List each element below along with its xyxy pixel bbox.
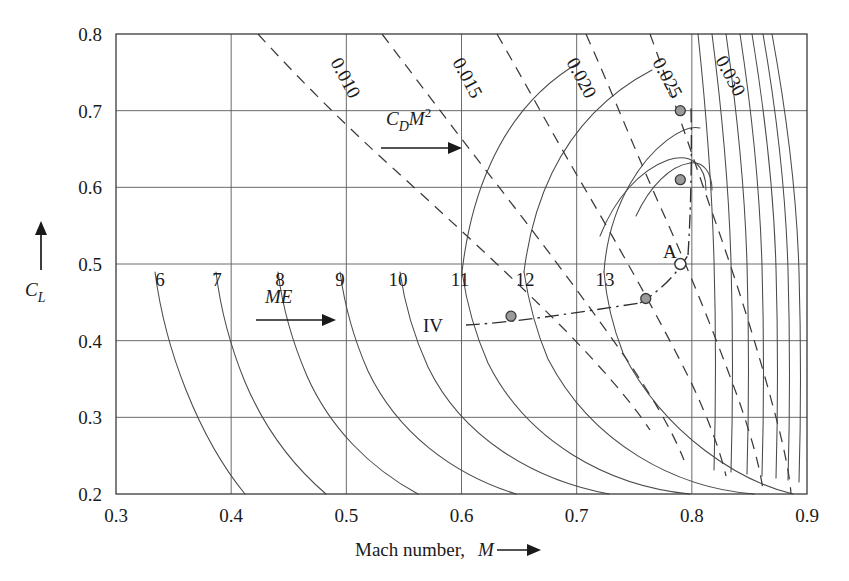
cdm2-label-sub: D [398, 119, 409, 134]
x-axis-title-symbol: M [477, 539, 495, 560]
x-tick-label-0.4: 0.4 [219, 505, 243, 526]
me-label-12: 12 [516, 269, 535, 290]
marker-filled-3 [641, 294, 651, 304]
marker-filled-1 [675, 106, 685, 116]
x-tick-label-0.3: 0.3 [104, 505, 128, 526]
cdm2-label-c: C [386, 108, 399, 129]
x-tick-label-0.6: 0.6 [450, 505, 474, 526]
x-tick-label-0.9: 0.9 [795, 505, 819, 526]
me-label-11: 11 [451, 269, 469, 290]
x-tick-label-0.5: 0.5 [334, 505, 358, 526]
y-tick-label-0.3: 0.3 [78, 407, 102, 428]
y-tick-label-0.4: 0.4 [78, 331, 102, 352]
y-axis-symbol-main: C [25, 279, 38, 300]
me-label-6: 6 [155, 269, 165, 290]
me-label-13: 13 [596, 269, 615, 290]
me-annotation-text: ME [264, 286, 293, 307]
y-tick-label-0.8: 0.8 [78, 24, 102, 45]
y-axis-symbol-sub: L [37, 290, 46, 305]
y-tick-label-0.2: 0.2 [78, 484, 102, 505]
contour-chart-svg: 0.30.40.50.60.70.80.9 0.20.30.40.50.60.7… [0, 0, 849, 581]
point-iv-label: IV [423, 315, 443, 336]
x-tick-label-0.8: 0.8 [680, 505, 704, 526]
y-tick-label-0.6: 0.6 [78, 177, 102, 198]
cdm2-label-exp: 2 [425, 105, 432, 120]
me-label-9: 9 [335, 269, 345, 290]
x-axis-title-text: Mach number, [355, 539, 465, 560]
chart-figure: 0.30.40.50.60.70.80.9 0.20.30.40.50.60.7… [0, 0, 849, 581]
point-a-label: A [663, 241, 677, 262]
cdm2-label-var: M [408, 108, 426, 129]
y-tick-label-0.7: 0.7 [78, 101, 102, 122]
marker-filled-IV [506, 311, 516, 321]
me-label-10: 10 [389, 269, 408, 290]
marker-filled-2 [675, 175, 685, 185]
me-label-7: 7 [212, 269, 222, 290]
x-tick-label-0.7: 0.7 [565, 505, 589, 526]
y-tick-label-0.5: 0.5 [78, 254, 102, 275]
